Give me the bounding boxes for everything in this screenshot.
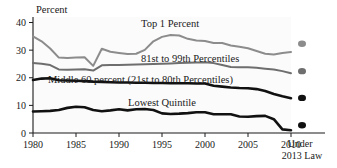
projection-dot-2 [298,95,306,101]
projection-dot-0 [298,41,306,47]
x-tick-label: 1985 [66,139,86,150]
y-tick-label: 40 [16,17,26,28]
projection-caption-line-2: 2013 Law [282,150,323,161]
y-tick-label: 10 [16,100,26,111]
projection-caption-line-1: Under [288,138,314,149]
x-tick-label: 2005 [238,139,258,150]
y-tick-label: 20 [16,72,26,83]
x-tick-label: 1980 [23,139,43,150]
series-label-lowest-quintile: Lowest Quintile [128,97,196,108]
x-tick-label: 1995 [152,139,172,150]
x-tick-label: 1990 [109,139,129,150]
share-of-income-chart: Percent 010203040 1980198519901995200020… [0,0,337,168]
series-label-middle-60-percent: Middle 60 percent (21st to 80th Percenti… [48,74,233,86]
y-tick-label: 30 [16,45,26,56]
x-tick-label: 2000 [195,139,215,150]
y-tick-label: 0 [21,128,26,139]
y-axis-title: Percent [36,4,68,15]
projection-dot-1 [298,68,306,74]
projection-dot-3 [298,122,306,128]
series-label-81st-to-99th-percentiles: 81st to 99th Percentiles [141,53,239,64]
chart-root: Percent 010203040 1980198519901995200020… [0,0,337,168]
series-label-top-1-percent: Top 1 Percent [141,18,199,29]
